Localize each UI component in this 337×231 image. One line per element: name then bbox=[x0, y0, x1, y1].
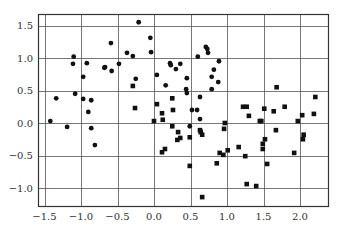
square-marker bbox=[312, 112, 317, 117]
square-marker bbox=[200, 195, 205, 200]
y-axis-tick-labels: 1.51.00.50.0−0.5−1.0 bbox=[9, 20, 33, 194]
square-marker bbox=[133, 106, 138, 111]
square-marker bbox=[160, 150, 165, 155]
circle-marker bbox=[65, 125, 70, 130]
grid-lines bbox=[38, 14, 328, 206]
circle-marker bbox=[211, 67, 216, 72]
square-marker bbox=[260, 142, 265, 147]
circle-marker bbox=[109, 41, 114, 46]
square-marker bbox=[152, 119, 157, 124]
square-marker bbox=[247, 114, 252, 119]
circle-marker bbox=[136, 20, 141, 25]
square-marker bbox=[198, 130, 203, 135]
x-tick-label: 1.0 bbox=[219, 211, 235, 222]
circle-marker bbox=[216, 80, 221, 85]
circle-marker bbox=[198, 117, 203, 122]
circle-marker bbox=[103, 65, 108, 70]
circle-marker bbox=[209, 87, 214, 92]
square-marker bbox=[131, 84, 136, 89]
square-marker bbox=[222, 127, 227, 132]
y-tick-label: −1.0 bbox=[9, 183, 33, 194]
square-marker bbox=[171, 108, 176, 113]
square-marker bbox=[236, 145, 241, 150]
circle-marker bbox=[89, 126, 94, 131]
circle-marker bbox=[206, 50, 211, 55]
square-marker bbox=[301, 132, 306, 137]
y-tick-label: 0.5 bbox=[17, 85, 33, 96]
x-tick-label: 0.5 bbox=[183, 211, 199, 222]
plot-frame bbox=[39, 15, 329, 207]
circle-marker bbox=[168, 63, 173, 68]
square-marker bbox=[300, 113, 305, 118]
y-tick-label: −0.5 bbox=[9, 150, 33, 161]
square-marker bbox=[265, 162, 270, 167]
square-marker bbox=[170, 96, 175, 101]
square-marker bbox=[170, 124, 175, 129]
square-marker bbox=[155, 102, 160, 107]
data-points bbox=[48, 20, 318, 200]
circle-marker bbox=[92, 143, 97, 148]
circle-marker bbox=[155, 73, 160, 78]
circle-marker bbox=[148, 35, 153, 40]
circle-marker bbox=[209, 74, 214, 79]
square-marker bbox=[223, 121, 228, 126]
y-tick-label: 1.5 bbox=[17, 20, 33, 31]
y-tick-label: 1.0 bbox=[17, 53, 33, 64]
circle-marker bbox=[149, 50, 154, 55]
square-marker bbox=[187, 135, 192, 140]
x-tick-label: −1.5 bbox=[32, 211, 56, 222]
square-marker bbox=[176, 130, 181, 135]
square-marker bbox=[225, 148, 230, 153]
circle-marker bbox=[178, 61, 183, 66]
circle-marker bbox=[184, 76, 189, 81]
circle-marker bbox=[54, 96, 59, 101]
square-marker bbox=[274, 85, 279, 90]
square-marker bbox=[282, 104, 287, 109]
square-marker bbox=[274, 128, 279, 133]
circle-marker bbox=[184, 91, 189, 96]
circle-marker bbox=[81, 74, 86, 79]
scatter-chart: −1.5−1.0−0.50.00.51.01.52.0 1.51.00.50.0… bbox=[0, 0, 337, 231]
circle-marker bbox=[130, 54, 135, 59]
circle-marker bbox=[73, 91, 78, 96]
x-tick-label: −1.0 bbox=[69, 211, 93, 222]
square-marker bbox=[313, 95, 318, 100]
circle-marker bbox=[198, 95, 203, 100]
square-marker bbox=[301, 137, 306, 142]
circle-marker bbox=[84, 61, 89, 66]
square-marker bbox=[160, 117, 165, 122]
square-marker bbox=[296, 119, 301, 124]
circle-marker bbox=[187, 124, 192, 129]
circle-marker bbox=[71, 54, 76, 59]
circle-marker bbox=[195, 108, 200, 113]
square-marker bbox=[260, 147, 265, 152]
circle-marker bbox=[71, 61, 76, 66]
square-marker bbox=[263, 137, 268, 142]
circle-marker bbox=[81, 97, 86, 102]
y-tick-label: 0.0 bbox=[17, 118, 33, 129]
square-marker bbox=[244, 182, 249, 187]
square-marker bbox=[292, 151, 297, 156]
square-marker bbox=[221, 153, 226, 158]
circle-marker bbox=[190, 108, 195, 113]
x-tick-label: −0.5 bbox=[105, 211, 129, 222]
circle-marker bbox=[109, 69, 114, 74]
square-marker bbox=[244, 104, 249, 109]
square-marker bbox=[187, 164, 192, 169]
circle-marker bbox=[133, 76, 138, 81]
x-tick-label: 0.0 bbox=[146, 211, 162, 222]
square-marker bbox=[254, 184, 259, 189]
x-tick-label: 1.5 bbox=[256, 211, 272, 222]
x-tick-label: 2.0 bbox=[292, 211, 308, 222]
square-marker bbox=[178, 136, 183, 141]
square-marker bbox=[259, 119, 264, 124]
x-axis-tick-labels: −1.5−1.0−0.50.00.51.01.52.0 bbox=[32, 211, 308, 222]
circle-marker bbox=[217, 59, 222, 64]
circle-marker bbox=[117, 61, 122, 66]
circle-marker bbox=[195, 54, 200, 59]
circle-marker bbox=[48, 119, 53, 124]
square-marker bbox=[262, 106, 267, 111]
square-marker bbox=[271, 109, 276, 114]
circle-marker bbox=[89, 98, 94, 103]
circle-marker bbox=[163, 83, 168, 88]
